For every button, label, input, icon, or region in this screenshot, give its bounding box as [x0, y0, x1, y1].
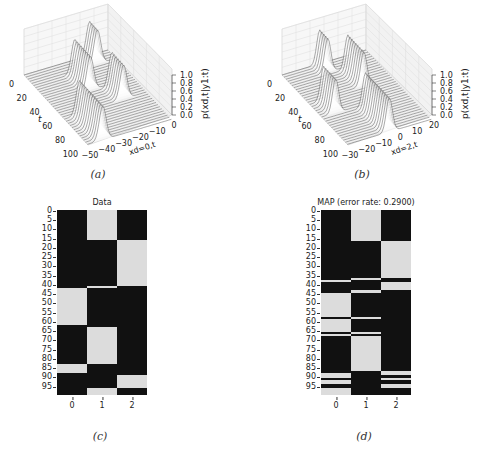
y-tick-label: 10 — [30, 225, 52, 233]
x-tick-label: 1 — [363, 401, 368, 410]
y-tick-label: 70 — [30, 336, 52, 344]
y-tick-label: 20 — [294, 244, 316, 252]
x-tick-label: 1 — [99, 401, 104, 410]
z-tick-label: 0.6 — [180, 87, 193, 96]
heatmap-on-segment — [321, 293, 351, 317]
panel-a-waterfall-plot: 020406080100t−50−40−30−20−100xd=0,t0.00.… — [0, 0, 240, 185]
y-tick-label: 15 — [30, 235, 52, 243]
heatmap-on-segment — [321, 280, 351, 282]
y-tick-label: 60 — [30, 318, 52, 326]
x-tick-label: −30 — [115, 139, 132, 148]
x-tick-label: 0 — [398, 133, 403, 142]
y-tick-label: 90 — [294, 373, 316, 381]
y-tick-label: 50 — [294, 299, 316, 307]
y-tick-label: 85 — [294, 364, 316, 372]
y-tick-label: 10 — [294, 225, 316, 233]
t-axis-label: t — [38, 114, 42, 124]
z-tick-label: 0.8 — [440, 79, 453, 88]
heatmap-on-segment — [381, 371, 411, 375]
y-tick-label: 85 — [30, 364, 52, 372]
t-tick-label: 100 — [63, 150, 78, 159]
x-tick-label: 0 — [69, 401, 74, 410]
t-tick-label: 0 — [9, 80, 14, 89]
heatmap-on-segment — [87, 210, 117, 240]
y-tick-label: 45 — [30, 290, 52, 298]
heatmap-title-d: MAP (error rate: 0.2900) — [317, 198, 414, 207]
x-tick-label: 20 — [429, 121, 439, 130]
y-tick-label: 60 — [294, 318, 316, 326]
heatmap-on-segment — [351, 317, 381, 319]
heatmap-on-segment — [57, 364, 87, 373]
y-tick-label: 45 — [294, 290, 316, 298]
y-tick-label: 35 — [294, 272, 316, 280]
heatmap-on-segment — [321, 319, 351, 332]
heatmap-on-segment — [351, 278, 381, 280]
heatmap-on-segment — [381, 241, 411, 278]
heatmap-on-segment — [351, 210, 381, 241]
caption-d: (d) — [356, 430, 372, 443]
heatmap-on-segment — [321, 388, 351, 395]
z-tick-label: 0.6 — [440, 87, 453, 96]
y-tick-label: 0 — [30, 207, 52, 215]
y-tick-label: 75 — [294, 346, 316, 354]
caption-b: (b) — [354, 168, 370, 181]
heatmap-on-segment — [321, 334, 351, 336]
heatmap-on-segment — [381, 378, 411, 380]
y-tick-label: 0 — [294, 207, 316, 215]
caption-a: (a) — [90, 168, 105, 181]
z-tick-label: 1.0 — [180, 71, 193, 80]
y-tick-label: 90 — [30, 373, 52, 381]
panel-d-map-heatmap: MAP (error rate: 0.2900) 051015202530354… — [240, 190, 478, 455]
y-tick-label: 30 — [30, 262, 52, 270]
caption-c: (c) — [93, 430, 108, 443]
z-axis-label: p(xd,t|y1:t) — [200, 68, 210, 119]
heatmap-on-segment — [87, 327, 117, 364]
x-tick-label: −40 — [98, 145, 115, 154]
heatmap-on-segment — [57, 288, 87, 325]
y-tick-label: 75 — [30, 346, 52, 354]
t-tick-label: 60 — [42, 122, 52, 131]
t-tick-label: 40 — [288, 108, 298, 117]
y-tick-label: 40 — [294, 281, 316, 289]
heatmap-on-segment — [321, 380, 351, 384]
x-tick-label: −20 — [132, 133, 149, 142]
heatmap-on-segment — [87, 286, 117, 288]
x-tick-label: −20 — [358, 145, 375, 154]
z-axis-label: p(xd,t|y1:t) — [460, 68, 470, 119]
panel-c-data-heatmap: Data 05101520253035404550556065707580859… — [0, 190, 240, 455]
x-tick-label: −50 — [82, 151, 99, 160]
y-tick-label: 55 — [30, 309, 52, 317]
z-tick-label: 0.2 — [440, 103, 453, 112]
x-tick-label: 0 — [171, 121, 176, 130]
y-tick-label: 80 — [30, 355, 52, 363]
heatmap-on-segment — [321, 373, 351, 379]
y-tick-label: 5 — [294, 216, 316, 224]
z-tick-label: 0.4 — [180, 95, 193, 104]
heatmap-on-segment — [381, 282, 411, 289]
y-tick-label: 20 — [30, 244, 52, 252]
y-tick-label: 25 — [30, 253, 52, 261]
heatmap-d — [321, 210, 411, 395]
y-tick-label: 5 — [30, 216, 52, 224]
heatmap-on-segment — [117, 240, 147, 286]
heatmap-on-segment — [351, 332, 381, 334]
x-tick-label: −10 — [149, 127, 166, 136]
t-tick-label: 0 — [267, 80, 272, 89]
y-tick-label: 25 — [294, 253, 316, 261]
t-tick-label: 80 — [55, 136, 65, 145]
z-tick-label: 1.0 — [440, 71, 453, 80]
z-tick-label: 0.8 — [180, 79, 193, 88]
z-tick-label: 0.0 — [440, 111, 453, 120]
y-tick-label: 35 — [30, 272, 52, 280]
t-axis-label: t — [298, 114, 302, 124]
z-tick-label: 0.0 — [180, 111, 193, 120]
waterfall-3d-chart-a: 020406080100t−50−40−30−20−100xd=0,t0.00.… — [0, 0, 240, 170]
heatmap-on-segment — [351, 290, 381, 294]
y-tick-label: 95 — [294, 383, 316, 391]
y-tick-label: 40 — [30, 281, 52, 289]
x-tick-label: −30 — [342, 151, 359, 160]
t-tick-label: 60 — [301, 122, 311, 131]
t-tick-label: 100 — [323, 150, 338, 159]
y-tick-label: 70 — [294, 336, 316, 344]
y-tick-label: 30 — [294, 262, 316, 270]
